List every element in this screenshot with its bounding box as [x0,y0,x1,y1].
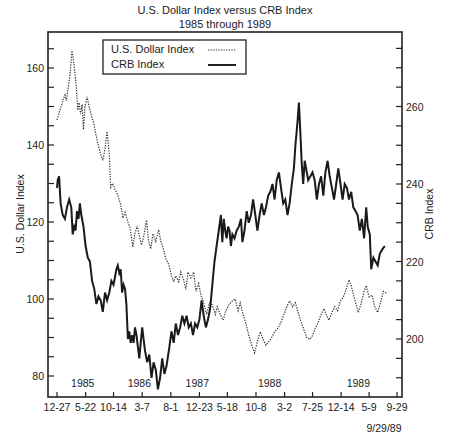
dollar-index-line [57,51,386,353]
x-axis-tick-label: 10-8 [245,401,266,413]
x-axis-tick-label: 5-9 [361,401,376,413]
year-label: 1986 [128,377,152,389]
legend-label-crb: CRB Index [111,58,165,70]
x-axis: 12-275-2210-143-78-112-235-1810-83-27-25… [44,392,408,413]
year-label: 1988 [258,377,282,389]
x-axis-tick-label: 5-22 [75,401,96,413]
chart: U.S. Dollar Index versus CRB Index 1985 … [0,0,451,438]
legend-label-dollar: U.S. Dollar Index [111,43,195,55]
x-axis-tick-label: 8-1 [163,401,178,413]
left-axis-tick-label: 140 [26,139,44,151]
year-label: 1987 [186,377,210,389]
x-axis-tick-label: 5-18 [217,401,238,413]
right-axis: 200220240260 [396,48,424,377]
year-labels: 19851986198719881989 [71,377,370,389]
x-axis-tick-label: 9-29 [386,401,407,413]
x-axis-tick-label: 12-27 [44,401,71,413]
left-axis-tick-label: 100 [26,293,44,305]
left-axis: 80100120140160 [26,49,54,382]
chart-title: U.S. Dollar Index versus CRB Index [138,4,313,16]
left-axis-label: U.S. Dollar Index [14,174,26,254]
x-axis-tick-label: 3-2 [277,401,292,413]
crb-index-line [57,103,385,390]
right-axis-tick-label: 260 [406,101,424,113]
legend: U.S. Dollar Index CRB Index [103,40,246,74]
series-layer [57,51,386,390]
plot-frame [48,32,402,397]
x-axis-tick-label: 3-7 [135,401,150,413]
left-axis-tick-label: 160 [26,62,44,74]
right-axis-label: CRB Index [423,188,435,240]
left-axis-tick-label: 120 [26,216,44,228]
left-axis-tick-label: 80 [32,370,44,382]
year-label: 1985 [71,377,95,389]
x-axis-end-date: 9/29/89 [366,422,401,434]
x-axis-tick-label: 12-14 [328,401,355,413]
year-label: 1989 [347,377,371,389]
x-axis-tick-label: 7-25 [302,401,323,413]
x-axis-tick-label: 10-14 [100,401,127,413]
right-axis-tick-label: 240 [406,178,424,190]
x-axis-tick-label: 12-23 [186,401,213,413]
right-axis-tick-label: 220 [406,256,424,268]
chart-subtitle: 1985 through 1989 [179,18,271,30]
right-axis-tick-label: 200 [406,333,424,345]
